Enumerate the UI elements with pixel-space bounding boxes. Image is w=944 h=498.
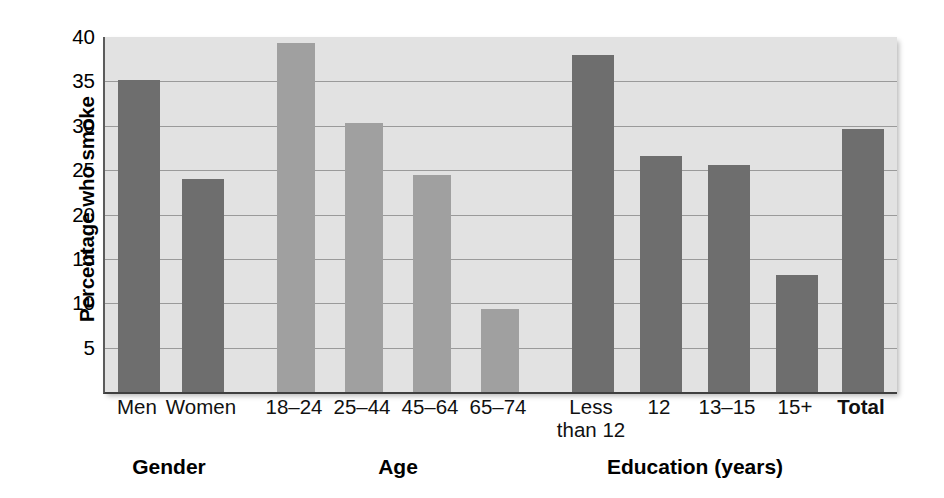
y-tick-label: 40 bbox=[55, 27, 95, 48]
group-label: Age bbox=[258, 455, 538, 479]
y-tick-label: 30 bbox=[55, 116, 95, 137]
bar-series bbox=[105, 37, 897, 392]
bar bbox=[640, 156, 682, 392]
x-axis-group-labels: GenderAgeEducation (years) bbox=[103, 455, 895, 495]
plot-area bbox=[103, 37, 897, 394]
bar bbox=[708, 165, 750, 392]
bar-chart-figure: Percentage who smoke 403530252015105 Men… bbox=[0, 0, 944, 498]
x-axis-category-labels: MenWomen18–2425–4445–6465–74Less than 12… bbox=[103, 396, 895, 456]
y-tick-label: 25 bbox=[55, 160, 95, 181]
bar bbox=[182, 179, 224, 392]
x-tick-label: Total bbox=[801, 396, 921, 419]
bar bbox=[413, 175, 451, 392]
bar bbox=[842, 129, 884, 392]
bar bbox=[572, 55, 614, 392]
bar bbox=[345, 123, 383, 392]
group-label: Education (years) bbox=[555, 455, 835, 479]
y-tick-label: 20 bbox=[55, 205, 95, 226]
y-tick-label: 5 bbox=[55, 338, 95, 359]
y-tick-label: 10 bbox=[55, 293, 95, 314]
bar bbox=[776, 275, 818, 392]
y-axis-tick-labels: 403530252015105 bbox=[50, 0, 95, 498]
bar bbox=[277, 43, 315, 392]
y-tick-label: 35 bbox=[55, 71, 95, 92]
y-tick-label: 15 bbox=[55, 249, 95, 270]
bar bbox=[118, 80, 160, 392]
bar bbox=[481, 309, 519, 392]
